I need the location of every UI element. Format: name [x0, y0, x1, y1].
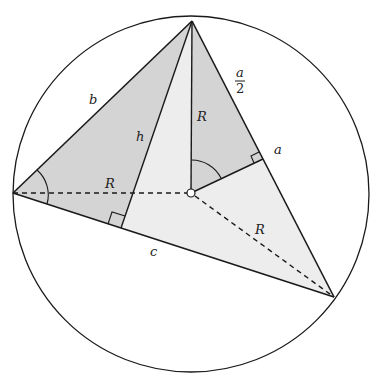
label-r-right: R [254, 222, 265, 237]
label-r-left: R [104, 176, 115, 191]
diagram-canvas: b h R R R a a 2 c [0, 0, 381, 382]
label-r-top: R [196, 109, 207, 124]
label-a: a [274, 142, 282, 157]
label-a-half-numerator: a [236, 65, 244, 80]
label-b: b [89, 92, 97, 107]
circumcenter-point [187, 189, 195, 197]
label-a-half-denominator: 2 [236, 81, 244, 96]
label-h: h [136, 129, 144, 144]
label-c: c [150, 244, 158, 259]
